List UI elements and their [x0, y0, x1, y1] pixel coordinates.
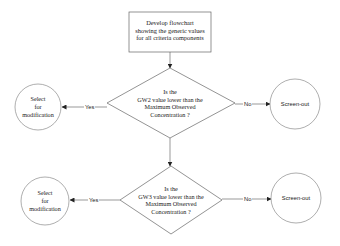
screen-out-text-2: Screen-out: [271, 194, 321, 202]
decision-1-line-3: Maximum Observed: [120, 103, 220, 111]
decision-1-line-2: GW2 value lower than the: [120, 96, 220, 104]
decision-1-no-label: No: [243, 101, 252, 107]
select-line-1: Select: [22, 189, 68, 197]
select-for-modification-text-2: Select for modification: [22, 189, 68, 213]
select-line-1: Select: [15, 95, 61, 103]
select-line-2: for: [22, 197, 68, 205]
start-box-line-1: Develop flowchart: [129, 19, 211, 27]
decision-2-line-1: Is the: [121, 185, 221, 193]
select-line-3: modification: [22, 205, 68, 213]
start-box-line-3: for all criteria components: [129, 34, 211, 42]
screen-out-text-1: Screen-out: [270, 100, 320, 108]
decision-2-line-4: Concentration ?: [121, 208, 221, 216]
decision-1-yes-label: Yes: [84, 104, 95, 110]
decision-2-no-label: No: [243, 196, 252, 202]
decision-1-text: Is the GW2 value lower than the Maximum …: [120, 88, 220, 118]
decision-1-line-4: Concentration ?: [120, 111, 220, 119]
select-for-modification-text-1: Select for modification: [15, 95, 61, 119]
select-line-3: modification: [15, 111, 61, 119]
decision-2-text: Is the GW3 value lower than the Maximum …: [121, 185, 221, 215]
decision-1-line-1: Is the: [120, 88, 220, 96]
decision-2-line-3: Maximum Observed: [121, 200, 221, 208]
select-line-2: for: [15, 103, 61, 111]
decision-2-yes-label: Yes: [88, 197, 99, 203]
start-box-line-2: showing the generic values: [129, 27, 211, 35]
start-box-text: Develop flowchart showing the generic va…: [129, 19, 211, 42]
decision-2-line-2: GW3 value lower than the: [121, 193, 221, 201]
